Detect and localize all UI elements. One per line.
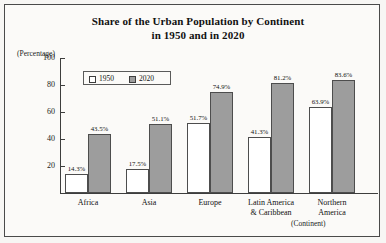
y-axis-tick [61, 85, 65, 86]
x-axis-line [60, 193, 378, 194]
legend-swatch-2020-icon [129, 76, 136, 83]
y-axis-tick-label: 100 [25, 54, 55, 62]
y-axis-tick-label: 60 [25, 108, 55, 116]
bar-2020-latin-america-caribbean [271, 83, 294, 193]
x-axis-title: (Continent) [291, 219, 326, 228]
chart-title-line-1: Share of the Urban Population by Contine… [35, 15, 361, 29]
x-axis-category-label: Latin America& Caribbean [240, 198, 302, 218]
y-axis-tick-label: 80 [25, 81, 55, 89]
chart-figure: Share of the Urban Population by Contine… [0, 0, 386, 243]
bar-2020-europe [210, 92, 233, 193]
bar-2020-northern-america [332, 80, 355, 193]
bar-value-label: 43.5% [82, 125, 117, 132]
legend-entry-2020: 2020 [129, 74, 154, 84]
plot-area: 20406080100 14.3%43.5%17.5%51.1%51.7%74.… [60, 58, 378, 193]
x-axis-category-label: Asia [118, 198, 180, 208]
y-axis-tick-label: 20 [25, 162, 55, 170]
y-axis-line [60, 58, 61, 194]
bar-value-label: 83.6% [326, 71, 361, 78]
bar-value-label: 81.2% [265, 74, 300, 81]
x-axis-category-label: NorthernAmerica [301, 198, 363, 218]
y-axis-tick [61, 58, 65, 59]
x-axis-category-label-line: America [301, 208, 363, 218]
x-axis-category-label-line: Asia [118, 198, 180, 208]
x-axis-category-label-line: Europe [179, 198, 241, 208]
bar-2020-asia [149, 124, 172, 193]
chart-title: Share of the Urban Population by Contine… [35, 15, 361, 42]
bar-1950-europe [187, 123, 210, 193]
chart-legend: 1950 2020 [83, 71, 171, 85]
x-axis-category-label: Europe [179, 198, 241, 208]
x-axis-category-label-line: & Caribbean [240, 208, 302, 218]
bar-value-label: 74.9% [204, 83, 239, 90]
bar-1950-northern-america [309, 107, 332, 193]
y-axis-tick-label: 40 [25, 135, 55, 143]
y-axis-tick [61, 139, 65, 140]
x-axis-category-label-line: Latin America [240, 198, 302, 208]
x-axis-category-label-line: Northern [301, 198, 363, 208]
legend-swatch-1950-icon [89, 76, 96, 83]
bar-1950-africa [65, 174, 88, 193]
legend-label-2020: 2020 [139, 75, 154, 83]
x-axis-category-label: Africa [57, 198, 119, 208]
y-axis-tick [61, 112, 65, 113]
bar-2020-africa [88, 134, 111, 193]
chart-title-line-2: in 1950 and in 2020 [35, 29, 361, 43]
bar-value-label: 51.1% [143, 115, 178, 122]
legend-entry-1950: 1950 [89, 74, 114, 84]
legend-label-1950: 1950 [99, 75, 114, 83]
bar-1950-latin-america-caribbean [248, 137, 271, 193]
figure-border: Share of the Urban Population by Contine… [4, 4, 380, 237]
x-axis-category-label-line: Africa [57, 198, 119, 208]
bar-1950-asia [126, 169, 149, 193]
